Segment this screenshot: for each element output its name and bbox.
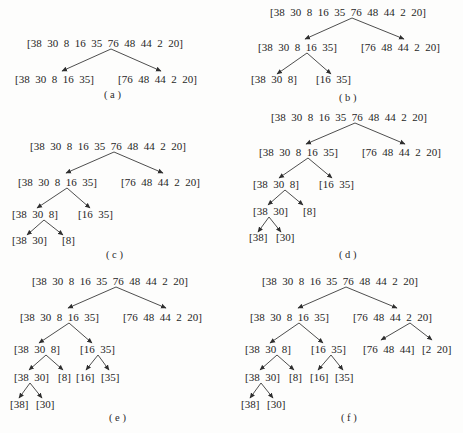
split-arrow-icon [19,383,30,398]
panel-b: [38 30 8 16 35 76 48 44 2 20][38 30 8 16… [251,6,440,104]
array-node: [38] [10,398,28,410]
array-node: [38 30 8 16 35 76 48 44 2 20] [32,275,188,287]
split-arrow-icon [114,152,163,173]
array-node: [38 30 8 16 35 76 48 44 2 20] [262,275,418,287]
array-node: [35] [101,371,119,383]
split-arrow-icon [66,152,114,173]
panel-caption: ( f ) [341,412,357,424]
split-arrow-icon [306,123,355,144]
array-node: [16] [310,371,328,383]
panel-caption: ( b ) [339,92,357,104]
array-node: [16 35] [311,343,346,355]
diagram-canvas: [38 30 8 16 35 76 48 44 2 20][38 30 8 16… [0,0,463,433]
array-node: [76 48 44 2 20] [353,311,432,323]
panel-caption: ( c ) [106,249,123,261]
split-arrow-icon [305,18,352,39]
array-node: [30] [36,398,54,410]
split-arrow-icon [352,18,404,39]
array-node: [76 48 44 2 20] [362,146,441,158]
split-arrow-icon [44,220,63,235]
split-arrow-icon [277,53,307,74]
split-arrow-icon [86,355,98,370]
split-arrow-icon [111,49,161,71]
panel-c: [38 30 8 16 35 76 48 44 2 20][38 30 8 16… [12,140,200,261]
split-arrow-icon [62,49,111,71]
split-arrow-icon [116,287,166,308]
array-node: [76 48 44 2 20] [121,176,200,188]
array-node: [38 30 8 16 35] [258,41,337,53]
array-node: [38 30 8] [253,178,299,190]
split-arrow-icon [68,287,116,308]
array-node: [38 30] [14,371,49,383]
split-arrow-icon [307,53,331,74]
array-node: [16] [76,371,94,383]
array-node: [16 35] [78,208,113,220]
split-arrow-icon [270,323,299,343]
array-node: [38 30 8 16 35] [259,146,338,158]
split-arrow-icon [346,287,397,308]
split-arrow-icon [250,383,261,398]
array-node: [38 30 8] [245,343,291,355]
split-arrow-icon [261,383,273,398]
split-arrow-icon [318,355,331,370]
array-node: [8] [289,371,302,383]
array-node: [38 30 8 16 35] [18,176,97,188]
split-arrow-icon [27,220,44,235]
split-arrow-icon [98,355,109,370]
array-node: [38 30 8 16 35 76 48 44 2 20] [30,140,186,152]
merge-sort-diagram: [38 30 8 16 35 76 48 44 2 20][38 30 8 16… [0,0,463,433]
split-arrow-icon [381,323,410,340]
array-node: [76 48 44 2 20] [118,73,197,85]
split-arrow-icon [308,158,332,178]
split-arrow-icon [260,355,277,370]
array-node: [38 30 8 16 35 76 48 44 2 20] [271,111,427,123]
array-node: [35] [335,371,353,383]
split-arrow-icon [268,190,285,205]
array-node: [30] [267,398,285,410]
array-node: [38 30 8 16 35 76 48 44 2 20] [270,6,426,18]
split-arrow-icon [331,355,343,370]
split-arrow-icon [29,355,46,370]
panel-f: [38 30 8 16 35 76 48 44 2 20][38 30 8 16… [241,275,451,424]
split-arrow-icon [37,188,67,208]
array-node: [38 30 8 16 35] [20,311,99,323]
split-arrow-icon [39,323,69,343]
array-node: [16 35] [80,343,115,355]
array-node: [8] [58,371,71,383]
split-arrow-icon [69,323,92,343]
array-node: [8] [62,234,75,246]
array-node: [38 30] [245,371,280,383]
array-node: [38 30 8] [12,208,58,220]
array-node: [16 35] [319,178,354,190]
array-node: [38 30 8 16 35] [250,311,329,323]
array-node: [38] [241,398,259,410]
split-arrow-icon [298,287,346,308]
split-arrow-icon [299,323,323,343]
array-node: [30] [276,231,294,243]
array-node: [16 35] [316,73,351,85]
array-node: [38 30] [253,205,288,217]
split-arrow-icon [46,355,63,370]
array-node: [38 30 8 16 35] [15,73,94,85]
panel-caption: ( a ) [104,89,121,101]
split-arrow-icon [285,190,303,205]
array-node: [2 20] [422,343,451,355]
panel-e: [38 30 8 16 35 76 48 44 2 20][38 30 8 16… [10,275,202,424]
split-arrow-icon [355,123,405,144]
array-node: [38 30 8 16 35 76 48 44 2 20] [27,37,183,49]
split-arrow-icon [30,383,42,398]
array-node: [38 30] [12,234,47,246]
split-arrow-icon [269,217,281,232]
panel-a: [38 30 8 16 35 76 48 44 2 20][38 30 8 16… [15,37,197,101]
array-node: [76 48 44] [363,343,414,355]
split-arrow-icon [279,158,308,178]
panel-d: [38 30 8 16 35 76 48 44 2 20][38 30 8 16… [249,111,441,261]
split-arrow-icon [67,188,90,208]
array-node: [8] [303,205,316,217]
split-arrow-icon [277,355,294,370]
array-node: [38] [249,231,267,243]
array-node: [38 30 8] [251,73,297,85]
split-arrow-icon [410,323,432,340]
array-node: [76 48 44 2 20] [361,41,440,53]
array-node: [76 48 44 2 20] [123,311,202,323]
